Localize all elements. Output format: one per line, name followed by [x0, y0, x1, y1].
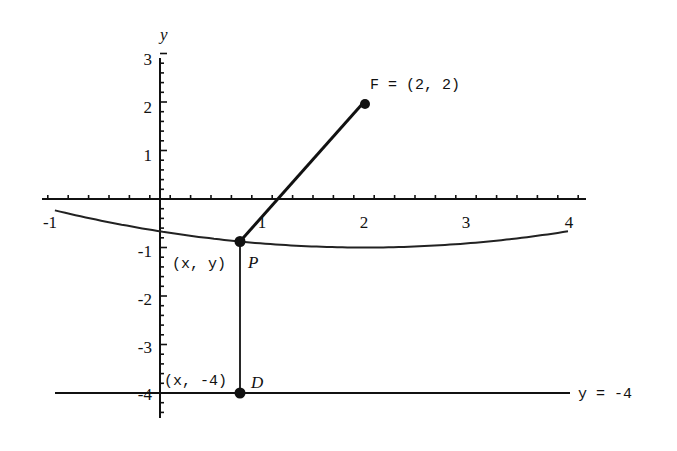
y-axis-label: y: [158, 25, 168, 44]
y-tick-label: -3: [138, 338, 152, 357]
point-p: [235, 236, 246, 247]
parabola-curve: [55, 210, 568, 247]
parabola-diagram: -1 1 2 3 4 3 2 1 -1 -2 -3 -4 y F = (2, 2…: [0, 0, 677, 451]
y-tick-label: -1: [138, 242, 152, 261]
p-label: P: [247, 253, 258, 272]
point-d: [235, 388, 246, 399]
x-tick-labels: -1 1 2 3 4: [43, 213, 574, 232]
x-tick-label: 2: [360, 213, 369, 232]
axis-ticks: [48, 54, 578, 413]
p-coord-label: (x, y): [172, 256, 226, 273]
x-tick-label: 4: [565, 213, 574, 232]
y-tick-labels: 3 2 1 -1 -2 -3 -4: [138, 50, 153, 404]
focus-point: [360, 99, 370, 109]
directrix-label: y = -4: [578, 386, 632, 403]
axes: [42, 58, 586, 418]
x-tick-label: -1: [43, 213, 57, 232]
x-tick-label: 3: [462, 213, 471, 232]
y-tick-label: -2: [138, 290, 152, 309]
x-tick-label: 1: [258, 213, 267, 232]
d-label: D: [250, 373, 264, 392]
d-coord-label: (x, -4): [164, 373, 227, 390]
focus-label: F = (2, 2): [370, 77, 460, 94]
y-tick-label: -4: [138, 385, 153, 404]
y-tick-label: 3: [144, 50, 153, 69]
y-tick-label: 1: [144, 146, 153, 165]
y-tick-label: 2: [144, 98, 153, 117]
diagram-canvas: -1 1 2 3 4 3 2 1 -1 -2 -3 -4 y F = (2, 2…: [0, 0, 677, 451]
